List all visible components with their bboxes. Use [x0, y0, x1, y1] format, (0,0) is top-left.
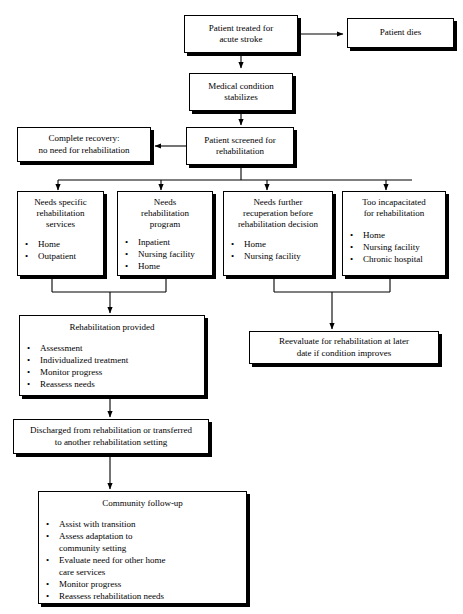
list-item-continuation: community setting: [39, 542, 246, 554]
node-line: rehabilitation: [202, 146, 277, 158]
bullet-icon: •: [350, 229, 353, 241]
list-item-label: Nursing facility: [363, 242, 420, 252]
bullet-icon: •: [231, 250, 234, 262]
node-needs-rehabilitation-program: Needs rehabilitation program • Inpatient…: [117, 191, 213, 276]
node-line: for rehabilitation: [343, 208, 445, 219]
list-item: • Chronic hospital: [343, 253, 445, 265]
bullet-icon: •: [125, 236, 128, 248]
node-line: Medical condition: [206, 81, 276, 93]
bullet-icon: •: [46, 530, 49, 542]
node-bullet-list: • Assist with transition • Assess adapta…: [39, 518, 246, 602]
node-line: date if condition improves: [277, 348, 411, 360]
node-bullet-list: • Inpatient • Nursing facility • Home: [118, 236, 212, 272]
node-complete-recovery: Complete recovery: no need for rehabilit…: [17, 127, 151, 162]
list-item-label: community setting: [59, 543, 126, 553]
list-item-label: Home: [38, 239, 60, 249]
node-line: acute stroke: [207, 34, 275, 46]
list-item-continuation: care services: [39, 566, 246, 578]
node-line: Community follow-up: [39, 498, 246, 510]
list-item: • Inpatient: [118, 236, 212, 248]
node-line: stabilizes: [206, 92, 276, 104]
bullet-icon: •: [46, 578, 49, 590]
bullet-icon: •: [125, 248, 128, 260]
node-line: Complete recovery:: [36, 133, 131, 145]
bullet-icon: •: [25, 238, 28, 250]
list-item-label: Reassess rehabilitation needs: [59, 591, 164, 601]
list-item: • Nursing facility: [224, 250, 332, 262]
node-line: rehabilitation: [118, 208, 212, 219]
list-item-label: Evaluate need for other home: [59, 555, 165, 565]
node-patient-screened-for-rehabilitation: Patient screened for rehabilitation: [186, 127, 294, 165]
list-item: • Nursing facility: [343, 241, 445, 253]
list-item: • Home: [343, 229, 445, 241]
list-item-label: Monitor progress: [40, 367, 102, 377]
node-line: to another rehabilitation setting: [28, 437, 194, 449]
bullet-icon: •: [27, 342, 30, 354]
node-too-incapacitated-for-rehabilitation: Too incapacitated for rehabilitation • H…: [342, 191, 446, 276]
node-bullet-list: • Home • Nursing facility: [224, 238, 332, 262]
list-item-label: Home: [138, 261, 160, 271]
node-medical-condition-stabilizes: Medical condition stabilizes: [189, 73, 293, 111]
flowchart-canvas: Patient treated for acute stroke Patient…: [0, 0, 463, 614]
list-item-label: Nursing facility: [244, 251, 301, 261]
bullet-icon: •: [46, 554, 49, 566]
node-line: Patient treated for: [207, 23, 275, 35]
list-item: • Outpatient: [18, 250, 103, 262]
list-item-label: Home: [244, 239, 266, 249]
bullet-icon: •: [46, 590, 49, 602]
node-line: Rehabilitation provided: [20, 322, 204, 334]
list-item-label: Chronic hospital: [363, 254, 423, 264]
node-line: program: [118, 219, 212, 230]
node-line: rehabilitation decision: [224, 219, 332, 230]
bullet-icon: •: [46, 518, 49, 530]
list-item-label: Assess adaptation to: [59, 531, 133, 541]
node-patient-treated-for-acute-stroke: Patient treated for acute stroke: [184, 15, 298, 53]
node-line: Discharged from rehabilitation or transf…: [28, 425, 194, 437]
list-item: • Assessment: [20, 342, 204, 354]
list-item: • Reassess rehabilitation needs: [39, 590, 246, 602]
node-line: Reevaluate for rehabilitation at later: [277, 336, 411, 348]
list-item: • Home: [224, 238, 332, 250]
list-item: • Home: [118, 260, 212, 272]
list-item-label: Nursing facility: [138, 249, 195, 259]
list-item: • Monitor progress: [20, 366, 204, 378]
list-item-label: Individualized treatment: [40, 355, 128, 365]
list-item-label: Inpatient: [138, 237, 170, 247]
list-item-label: Assist with transition: [59, 519, 136, 529]
list-item-label: Assessment: [40, 343, 83, 353]
bullet-icon: •: [25, 250, 28, 262]
list-item-label: care services: [59, 567, 105, 577]
list-item: • Nursing facility: [118, 248, 212, 260]
node-rehabilitation-provided: Rehabilitation provided • Assessment • I…: [19, 315, 205, 396]
list-item-label: Home: [363, 230, 385, 240]
node-bullet-list: • Home • Nursing facility • Chronic hosp…: [343, 229, 445, 265]
bullet-icon: •: [27, 354, 30, 366]
node-reevaluate-for-rehabilitation: Reevaluate for rehabilitation at later d…: [249, 331, 439, 364]
node-needs-specific-rehabilitation-services: Needs specific rehabilitation services •…: [17, 191, 104, 276]
node-patient-dies: Patient dies: [347, 18, 454, 48]
list-item: • Individualized treatment: [20, 354, 204, 366]
node-line: Too incapacitated: [343, 197, 445, 208]
node-line: Patient screened for: [202, 135, 277, 147]
list-item: • Evaluate need for other home: [39, 554, 246, 566]
node-needs-further-recuperation: Needs further recuperation before rehabi…: [223, 191, 333, 276]
node-discharged-from-rehabilitation: Discharged from rehabilitation or transf…: [13, 419, 209, 454]
list-item-label: Outpatient: [38, 251, 76, 261]
bullet-icon: •: [27, 378, 30, 390]
list-item: • Reassess needs: [20, 378, 204, 390]
node-line: Needs specific: [18, 197, 103, 208]
node-line: Patient dies: [378, 27, 424, 39]
node-bullet-list: • Home • Outpatient: [18, 238, 103, 262]
node-line: Needs further: [224, 197, 332, 208]
list-item: • Assist with transition: [39, 518, 246, 530]
list-item: • Home: [18, 238, 103, 250]
list-item-label: Monitor progress: [59, 579, 121, 589]
list-item: • Monitor progress: [39, 578, 246, 590]
node-line: services: [18, 219, 103, 230]
node-bullet-list: • Assessment • Individualized treatment …: [20, 342, 204, 390]
bullet-icon: •: [27, 366, 30, 378]
bullet-icon: •: [231, 238, 234, 250]
bullet-icon: •: [350, 253, 353, 265]
bullet-icon: •: [125, 260, 128, 272]
node-line: recuperation before: [224, 208, 332, 219]
